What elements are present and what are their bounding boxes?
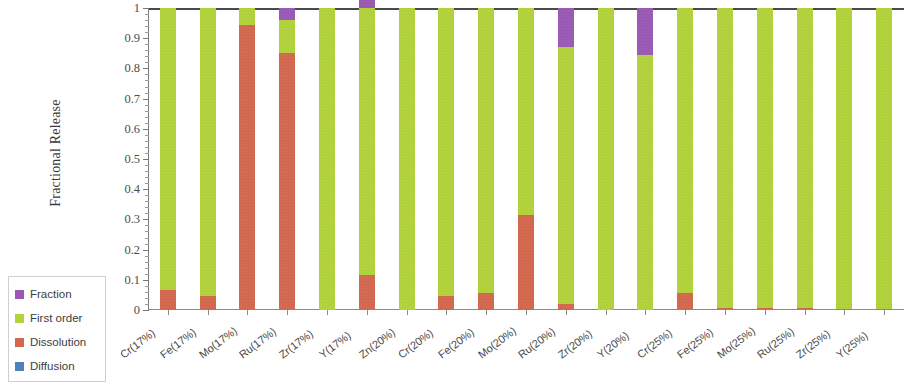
legend-label: Dissolution <box>30 336 86 348</box>
y-tick-minor <box>145 292 149 293</box>
x-tick-label: Y(25%) <box>834 329 870 360</box>
x-tick-label: Y(17%) <box>317 329 353 360</box>
stacked-bar <box>359 0 375 310</box>
y-tick-label: 0 <box>104 303 140 318</box>
bar-segment-dissolution <box>876 309 892 310</box>
bar-segment-first-order <box>200 8 216 296</box>
y-tick-minor <box>145 74 149 75</box>
chart-legend: FractionFirst orderDissolutionDiffusion <box>8 276 106 382</box>
bar-segment-dissolution <box>438 296 454 310</box>
y-tick-major <box>143 129 149 130</box>
bar-segment-first-order <box>797 8 813 308</box>
y-tick-minor <box>145 225 149 226</box>
x-tick-label: Ru(25%) <box>754 325 795 360</box>
legend-label: First order <box>30 312 82 324</box>
x-tick <box>884 310 885 315</box>
stacked-bar <box>757 8 773 310</box>
x-tick <box>486 310 487 315</box>
stacked-bar <box>200 8 216 310</box>
y-tick-major <box>143 310 149 311</box>
legend-item-first-order[interactable]: First order <box>15 306 99 330</box>
y-tick-minor <box>145 62 149 63</box>
bar-segment-first-order <box>836 8 852 308</box>
bar-segment-first-order <box>518 8 534 215</box>
y-tick-minor <box>145 244 149 245</box>
bar-segment-first-order <box>160 8 176 290</box>
legend-item-diffusion[interactable]: Diffusion <box>15 354 99 378</box>
stacked-bar <box>876 8 892 310</box>
legend-item-fraction[interactable]: Fraction <box>15 282 99 306</box>
x-tick <box>168 310 169 315</box>
bar-segment-dissolution <box>518 215 534 310</box>
bar-segment-first-order <box>598 8 614 310</box>
y-tick-label: 0.5 <box>104 152 140 167</box>
bar-segment-first-order <box>399 8 415 310</box>
x-tick-label: Y(20%) <box>595 329 631 360</box>
y-tick-minor <box>145 268 149 269</box>
stacked-bar <box>637 8 653 310</box>
bar-segment-first-order <box>438 8 454 296</box>
bar-segment-dissolution <box>717 308 733 310</box>
y-tick-minor <box>145 80 149 81</box>
bar-segment-fraction <box>279 8 295 20</box>
stacked-bar <box>279 8 295 310</box>
bar-segment-dissolution <box>797 308 813 310</box>
x-tick-label: Mo(20%) <box>476 324 518 360</box>
bar-segment-first-order <box>637 55 653 310</box>
y-tick-minor <box>145 123 149 124</box>
x-tick <box>247 310 248 315</box>
x-tick <box>566 310 567 315</box>
y-tick-minor <box>145 93 149 94</box>
x-tick <box>526 310 527 315</box>
y-tick-major <box>143 250 149 251</box>
y-tick-minor <box>145 195 149 196</box>
x-tick-label: Cr(17%) <box>118 327 157 361</box>
y-axis-title: Fractional Release <box>48 78 64 228</box>
y-tick-label: 0.4 <box>104 182 140 197</box>
bar-segment-first-order <box>359 8 375 275</box>
legend-swatch-icon <box>15 314 24 323</box>
bar-segment-first-order <box>478 8 494 293</box>
y-tick-minor <box>145 207 149 208</box>
y-tick-label: 0.2 <box>104 242 140 257</box>
y-tick-minor <box>145 165 149 166</box>
y-tick-minor <box>145 256 149 257</box>
x-tick-label: Mo(25%) <box>714 324 756 360</box>
y-tick-label: 0.1 <box>104 272 140 287</box>
legend-swatch-icon <box>15 290 24 299</box>
y-tick-major <box>143 219 149 220</box>
bar-segment-first-order <box>558 47 574 304</box>
x-tick-label: Zn(20%) <box>356 326 396 361</box>
x-tick-label: Cr(20%) <box>396 327 435 361</box>
y-tick-major <box>143 159 149 160</box>
y-tick-major <box>143 8 149 9</box>
bar-segment-dissolution <box>757 308 773 310</box>
y-tick-major <box>143 189 149 190</box>
stacked-bar <box>319 8 335 310</box>
y-tick-minor <box>145 213 149 214</box>
y-tick-minor <box>145 262 149 263</box>
y-tick-minor <box>145 147 149 148</box>
bar-segment-dissolution <box>359 275 375 310</box>
x-tick-label: Zr(17%) <box>277 327 315 360</box>
x-tick <box>208 310 209 315</box>
stacked-bar <box>797 8 813 310</box>
legend-item-dissolution[interactable]: Dissolution <box>15 330 99 354</box>
x-tick-label: Fe(20%) <box>436 326 476 361</box>
x-tick-label: Mo(17%) <box>197 324 239 360</box>
y-tick-minor <box>145 286 149 287</box>
y-tick-minor <box>145 153 149 154</box>
x-tick <box>367 310 368 315</box>
y-tick-minor <box>145 238 149 239</box>
bar-segment-first-order <box>319 8 335 310</box>
y-tick-minor <box>145 26 149 27</box>
plot-area <box>148 8 904 310</box>
y-tick-minor <box>145 231 149 232</box>
y-tick-minor <box>145 298 149 299</box>
y-tick-minor <box>145 183 149 184</box>
x-tick-label: Fe(25%) <box>675 326 715 361</box>
stacked-bar <box>239 8 255 310</box>
bar-segment-first-order <box>876 8 892 309</box>
bar-segment-first-order <box>757 8 773 308</box>
x-tick <box>606 310 607 315</box>
